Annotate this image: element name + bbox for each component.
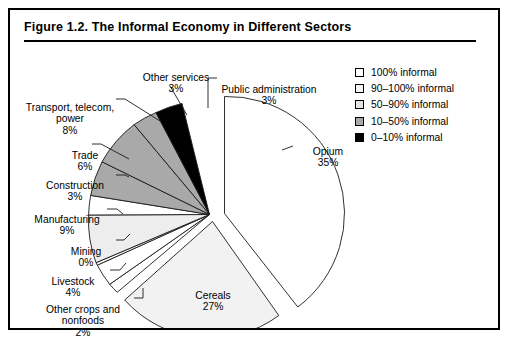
pie-label-construction-name: Construction <box>46 180 104 191</box>
legend: 100% informal 90–100% informal 50–90% in… <box>355 64 493 146</box>
figure-frame: Figure 1.2. The Informal Economy in Diff… <box>8 8 500 330</box>
legend-item-label: 10–50% informal <box>371 116 448 127</box>
legend-item-label: 0–10% informal <box>371 132 443 143</box>
pie-label-trade-name: Trade <box>72 150 99 161</box>
pie-label-public-administration: Public administration 3% <box>213 72 325 118</box>
legend-item-label: 50–90% informal <box>371 99 448 110</box>
pie-label-other-services-pct: 3% <box>128 83 224 95</box>
pie-label-transport-pct: 8% <box>18 125 122 137</box>
pie-label-opium-name: Opium <box>313 146 343 157</box>
pie-label-opium-pct: 35% <box>297 157 359 169</box>
square-swatch-icon <box>355 117 364 126</box>
pie-label-other-crops: Other crops and nonfoods 2% <box>24 292 142 338</box>
legend-item-label: 100% informal <box>371 67 437 78</box>
pie-label-public-administration-name: Public administration <box>221 84 316 95</box>
square-swatch-icon <box>355 133 364 142</box>
pie-label-manufacturing-name: Manufacturing <box>34 214 99 225</box>
legend-item-10-50[interactable]: 10–50% informal <box>355 113 493 129</box>
pie-label-livestock-name: Livestock <box>52 276 95 287</box>
pie-label-other-services-name: Other services <box>143 72 209 83</box>
square-swatch-icon <box>355 100 364 109</box>
pie-label-other-crops-pct: 2% <box>24 327 142 338</box>
page-title: Figure 1.2. The Informal Economy in Diff… <box>24 20 484 34</box>
legend-item-100[interactable]: 100% informal <box>355 64 493 80</box>
pie-label-mining-name: Mining <box>71 246 101 257</box>
pie-label-transport-name: Transport, telecom, power <box>26 102 114 125</box>
pie-label-other-crops-name: Other crops and nonfoods <box>46 304 120 327</box>
pie-label-cereals: Cereals 27% <box>170 278 256 324</box>
legend-item-label: 90–100% informal <box>371 83 454 94</box>
pie-chart: Other services 3% Public administration … <box>10 42 498 328</box>
pie-label-public-administration-pct: 3% <box>213 95 325 107</box>
square-swatch-icon <box>355 84 364 93</box>
square-swatch-icon <box>355 68 364 77</box>
pie-label-other-services: Other services 3% <box>128 60 224 106</box>
legend-item-90-100[interactable]: 90–100% informal <box>355 80 493 96</box>
legend-item-50-90[interactable]: 50–90% informal <box>355 97 493 113</box>
pie-label-opium: Opium 35% <box>297 134 359 180</box>
pie-label-cereals-name: Cereals <box>195 290 230 301</box>
pie-label-cereals-pct: 27% <box>170 301 256 313</box>
legend-item-0-10[interactable]: 0–10% informal <box>355 130 493 146</box>
